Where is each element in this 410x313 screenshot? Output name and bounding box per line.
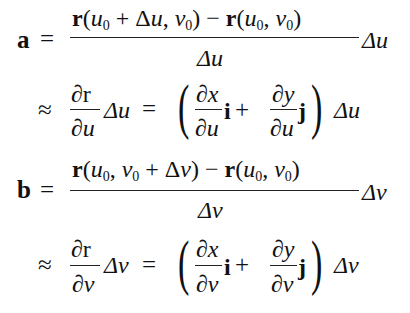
unit-vector-i: i <box>224 99 231 123</box>
fraction-bar <box>70 109 100 110</box>
approx-sign: ≈ <box>38 97 52 122</box>
denominator: Δv <box>198 198 223 222</box>
equals-sign: = <box>40 177 54 202</box>
numerator: r(u0, v0 + Δv) − r(u0, v0) <box>72 157 300 181</box>
partial-numerator: ∂r <box>71 237 91 261</box>
denominator: Δu <box>197 46 223 70</box>
factor: Δv <box>104 253 129 277</box>
equals-sign: = <box>40 26 54 51</box>
fraction-bar <box>270 109 297 110</box>
factor: Δu <box>334 98 360 122</box>
unit-vector-j: j <box>298 255 306 279</box>
factor: Δu <box>362 28 388 52</box>
fraction-bar <box>70 265 100 266</box>
open-paren: ( <box>178 231 189 293</box>
close-paren: ) <box>311 231 322 293</box>
term2-numerator: ∂y <box>272 82 295 106</box>
fraction-bar <box>70 37 359 38</box>
equation-b-approx: ≈ ∂r ∂v Δv = ( ∂x ∂v i + ∂y ∂v j ) Δv <box>0 228 410 308</box>
term2-denominator: ∂v <box>271 272 294 296</box>
equation-b: b = r(u0, v0 + Δv) − r(u0, v0) Δv Δv <box>0 152 410 227</box>
term1-denominator: ∂v <box>196 272 219 296</box>
plus-sign: + <box>235 97 249 122</box>
fraction-bar <box>270 265 297 266</box>
equals-sign: = <box>142 96 156 121</box>
unit-vector-j: j <box>298 99 306 123</box>
term1-numerator: ∂x <box>196 237 219 261</box>
partial-denominator: ∂v <box>72 272 95 296</box>
open-paren: ( <box>178 75 189 137</box>
term1-numerator: ∂x <box>196 82 219 106</box>
term2-numerator: ∂y <box>272 237 295 261</box>
equation-a-approx: ≈ ∂r ∂u Δu = ( ∂x ∂u i + ∂y ∂u j ) Δu <box>0 75 410 150</box>
close-paren: ) <box>311 75 322 137</box>
factor: Δv <box>362 180 387 204</box>
vector-b: b <box>17 177 31 202</box>
fraction-bar <box>195 109 222 110</box>
numerator: r(u0 + Δu, v0) − r(u0, v0) <box>72 6 301 30</box>
fraction-bar <box>70 190 359 191</box>
approx-sign: ≈ <box>38 252 52 277</box>
plus-sign: + <box>235 252 249 277</box>
factor: Δv <box>334 253 359 277</box>
vector-a: a <box>17 27 30 52</box>
term2-denominator: ∂u <box>270 116 294 140</box>
factor: Δu <box>104 98 130 122</box>
fraction-bar <box>195 265 222 266</box>
equation-a: a = r(u0 + Δu, v0) − r(u0, v0) Δu Δu <box>0 0 410 75</box>
unit-vector-i: i <box>224 255 231 279</box>
equals-sign: = <box>142 252 156 277</box>
partial-denominator: ∂u <box>71 116 95 140</box>
term1-denominator: ∂u <box>195 116 219 140</box>
partial-numerator: ∂r <box>71 82 91 106</box>
